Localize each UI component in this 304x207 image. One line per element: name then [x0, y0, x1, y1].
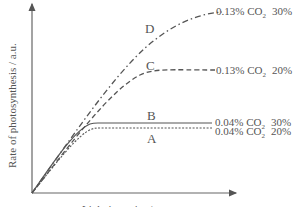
svg-text:0.13% CO220%: 0.13% CO220%: [216, 64, 292, 79]
legend-a: 0.04% CO220%: [215, 125, 291, 140]
curve-label-b: B: [147, 108, 156, 123]
legend-d: 0.13% CO230%: [216, 5, 292, 20]
curve-d: [32, 12, 222, 193]
curve-label-c: C: [146, 58, 155, 73]
photosynthesis-chart: D C B A 0.13% CO230% 0.13% CO220% 0.04% …: [0, 0, 304, 207]
svg-text:0.04% CO220%: 0.04% CO220%: [215, 125, 291, 140]
curve-a: [32, 128, 212, 193]
svg-text:0.13% CO230%: 0.13% CO230%: [216, 5, 292, 20]
y-axis-title: Rate of photosynthesis / a.u.: [6, 43, 18, 168]
x-axis-title: Light intensity / a.u.: [82, 203, 171, 207]
curve-label-a: A: [147, 131, 157, 146]
curve-label-d: D: [145, 21, 154, 36]
curve-c: [32, 70, 215, 193]
legend-c: 0.13% CO220%: [216, 64, 292, 79]
